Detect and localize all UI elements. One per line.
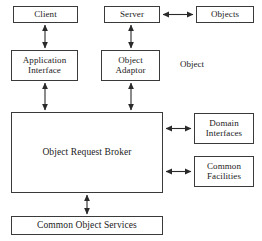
node-common-object-services-label: Common Object Services xyxy=(37,220,137,230)
node-object-adaptor[interactable]: Object Adaptor xyxy=(101,50,160,81)
node-client-label: Client xyxy=(34,10,57,20)
corba-architecture-diagram: Client Server Objects Application Interf… xyxy=(0,0,262,241)
node-application-interface[interactable]: Application Interface xyxy=(11,50,78,81)
node-application-interface-label-line2: Interface xyxy=(23,66,67,76)
node-object-request-broker-label: Object Request Broker xyxy=(42,147,131,157)
node-common-object-services[interactable]: Common Object Services xyxy=(11,216,163,235)
node-object-adaptor-label-line2: Adaptor xyxy=(115,66,145,76)
node-client[interactable]: Client xyxy=(13,6,78,23)
node-object-request-broker[interactable]: Object Request Broker xyxy=(11,112,163,193)
node-domain-interfaces-label-line2: Interfaces xyxy=(206,129,242,139)
node-server-label: Server xyxy=(120,10,144,20)
node-common-facilities-label-line2: Facilities xyxy=(207,172,241,182)
node-server[interactable]: Server xyxy=(104,6,160,23)
label-object: Object xyxy=(180,59,204,69)
node-objects[interactable]: Objects xyxy=(196,6,254,23)
node-domain-interfaces[interactable]: Domain Interfaces xyxy=(194,113,254,144)
node-common-facilities[interactable]: Common Facilities xyxy=(194,156,254,187)
node-objects-label: Objects xyxy=(211,10,239,20)
